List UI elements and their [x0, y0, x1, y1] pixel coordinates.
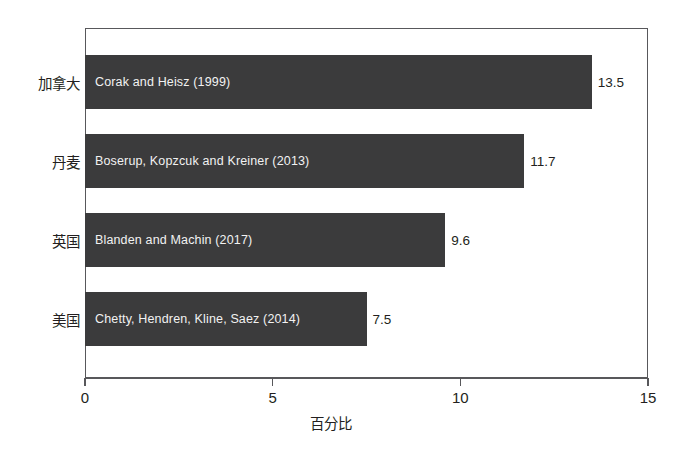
bar-丹麦[interactable] — [85, 134, 524, 188]
x-tick-mark — [272, 378, 274, 386]
bar-value-label: 11.7 — [524, 134, 555, 188]
bar-chart: Corak and Heisz (1999)13.5Boserup, Kopzc… — [0, 0, 691, 452]
bar-美国[interactable] — [85, 292, 367, 346]
x-axis-title-text: 百分比 — [310, 416, 352, 432]
y-axis-label-英国: 英国 — [0, 230, 80, 251]
bar-value-label: 13.5 — [592, 55, 624, 109]
bar-英国[interactable] — [85, 213, 445, 267]
x-axis-title: 百分比 — [0, 412, 691, 433]
y-axis-label-丹麦: 丹麦 — [0, 151, 80, 172]
bars-layer: Corak and Heisz (1999)13.5Boserup, Kopzc… — [85, 28, 648, 378]
x-tick-mark — [460, 378, 462, 386]
bar-row: Boserup, Kopzcuk and Kreiner (2013)11.7 — [85, 134, 648, 188]
x-tick-mark — [84, 378, 86, 386]
x-tick-label: 0 — [81, 389, 89, 406]
bar-value-label: 7.5 — [367, 292, 392, 346]
bar-row: Chetty, Hendren, Kline, Saez (2014)7.5 — [85, 292, 648, 346]
x-tick-label: 15 — [640, 389, 657, 406]
bar-加拿大[interactable] — [85, 55, 592, 109]
bar-row: Blanden and Machin (2017)9.6 — [85, 213, 648, 267]
bar-row: Corak and Heisz (1999)13.5 — [85, 55, 648, 109]
x-tick-label: 5 — [268, 389, 276, 406]
x-axis-line — [85, 377, 648, 379]
y-axis-label-美国: 美国 — [0, 309, 80, 330]
x-tick-label: 10 — [452, 389, 469, 406]
x-tick-mark — [647, 378, 649, 386]
bar-value-label: 9.6 — [445, 213, 470, 267]
y-axis-label-加拿大: 加拿大 — [0, 72, 80, 93]
